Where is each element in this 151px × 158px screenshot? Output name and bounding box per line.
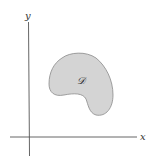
x-axis-label: x [140, 131, 146, 142]
y-axis [29, 22, 30, 156]
diagram-canvas: x y 𝒟 [0, 0, 151, 158]
y-axis-label: y [24, 10, 31, 21]
